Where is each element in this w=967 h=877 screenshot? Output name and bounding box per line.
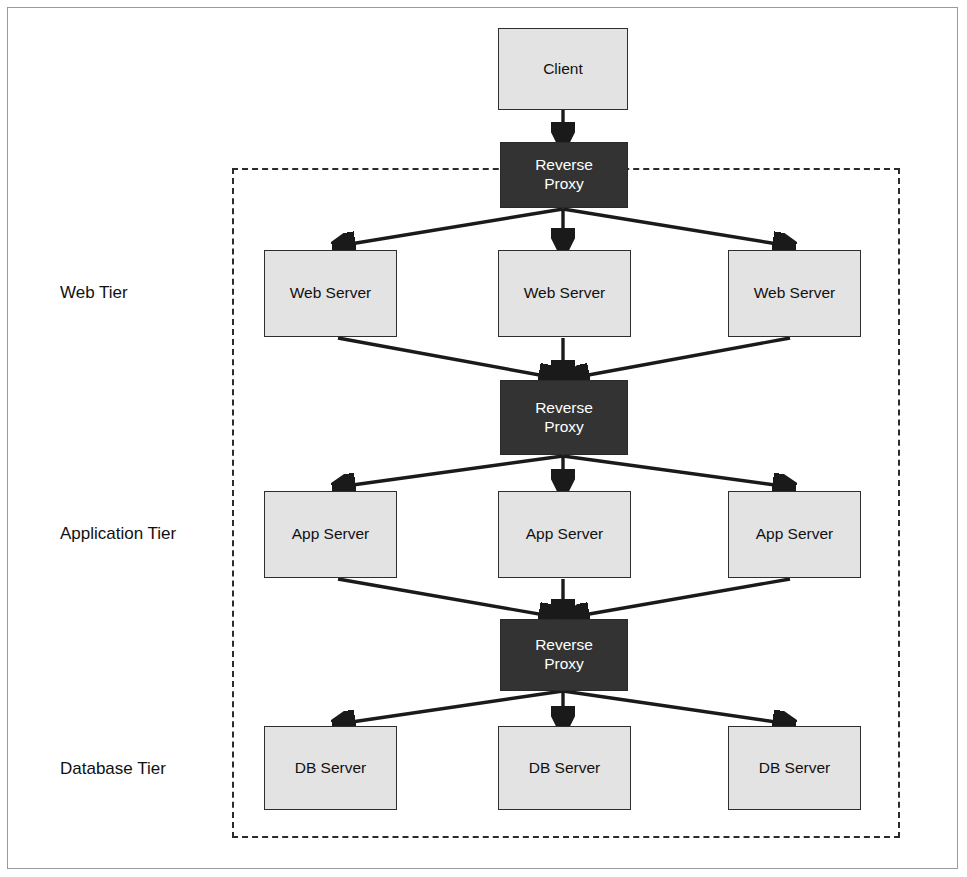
tier-label-web: Web Tier — [60, 283, 128, 303]
node-web-server-1-label: Web Server — [290, 284, 372, 303]
node-reverse-proxy-top[interactable]: Reverse Proxy — [500, 142, 628, 208]
node-app-server-3-label: App Server — [756, 525, 834, 544]
node-reverse-proxy-top-label: Reverse Proxy — [535, 156, 593, 194]
node-reverse-proxy-bottom-label: Reverse Proxy — [535, 636, 593, 674]
diagram-canvas: Web Tier Application Tier Database Tier … — [0, 0, 967, 877]
tier-label-database-text: Database Tier — [60, 759, 166, 778]
node-app-server-3[interactable]: App Server — [728, 491, 861, 578]
node-client[interactable]: Client — [498, 28, 628, 110]
node-app-server-2-label: App Server — [526, 525, 604, 544]
node-app-server-1[interactable]: App Server — [264, 491, 397, 578]
node-db-server-1-label: DB Server — [295, 759, 367, 778]
tier-label-web-text: Web Tier — [60, 283, 128, 302]
node-db-server-3-label: DB Server — [759, 759, 831, 778]
node-db-server-3[interactable]: DB Server — [728, 726, 861, 810]
node-web-server-2[interactable]: Web Server — [498, 250, 631, 337]
node-reverse-proxy-middle[interactable]: Reverse Proxy — [500, 380, 628, 455]
node-client-label: Client — [543, 60, 583, 79]
tier-label-application: Application Tier — [60, 524, 176, 544]
node-web-server-3-label: Web Server — [754, 284, 836, 303]
node-db-server-2[interactable]: DB Server — [498, 726, 631, 810]
node-app-server-1-label: App Server — [292, 525, 370, 544]
node-db-server-2-label: DB Server — [529, 759, 601, 778]
tier-label-database: Database Tier — [60, 759, 166, 779]
node-web-server-3[interactable]: Web Server — [728, 250, 861, 337]
node-web-server-2-label: Web Server — [524, 284, 606, 303]
node-reverse-proxy-bottom[interactable]: Reverse Proxy — [500, 619, 628, 691]
tier-label-application-text: Application Tier — [60, 524, 176, 543]
node-app-server-2[interactable]: App Server — [498, 491, 631, 578]
node-db-server-1[interactable]: DB Server — [264, 726, 397, 810]
node-web-server-1[interactable]: Web Server — [264, 250, 397, 337]
node-reverse-proxy-middle-label: Reverse Proxy — [535, 399, 593, 437]
